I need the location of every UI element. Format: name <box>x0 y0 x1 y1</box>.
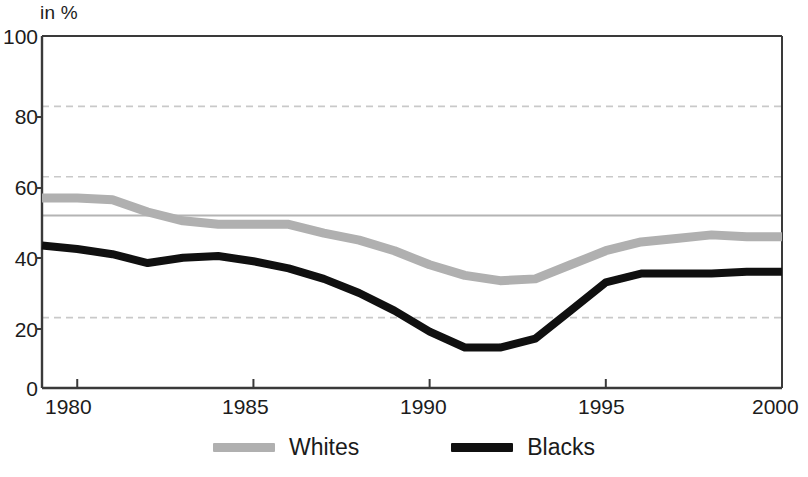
legend-label-whites: Whites <box>289 436 359 459</box>
series-line-whites <box>42 198 782 281</box>
chart-legend: Whites Blacks <box>0 436 808 459</box>
legend-swatch-whites <box>213 443 275 452</box>
chart-figure: in % 100 80 60 40 20 0 1980 1985 1990 19… <box>0 0 808 477</box>
legend-item-whites: Whites <box>213 436 359 459</box>
legend-item-blacks: Blacks <box>451 436 595 459</box>
chart-plot-area <box>0 0 808 477</box>
legend-label-blacks: Blacks <box>527 436 595 459</box>
x-axis-ticks <box>77 379 782 388</box>
legend-swatch-blacks <box>451 443 513 452</box>
